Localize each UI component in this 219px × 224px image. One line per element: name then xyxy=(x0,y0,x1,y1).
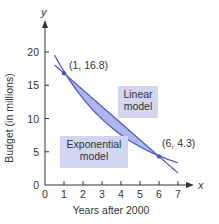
linear-model-label-line1: Linear xyxy=(118,88,158,100)
linear-model-label: Linear model xyxy=(118,86,158,118)
data-point xyxy=(157,154,161,158)
exponential-model-label-line2: model xyxy=(60,150,128,162)
x-tick-label: 2 xyxy=(80,188,86,200)
x-tick-label: 0 xyxy=(42,188,48,200)
data-point xyxy=(62,71,66,75)
x-axis-symbol: x xyxy=(197,179,204,191)
y-axis-arrow xyxy=(42,20,48,28)
y-tick-label: 0 xyxy=(33,179,39,191)
y-tick-label: 20 xyxy=(27,46,39,58)
x-tick-label: 5 xyxy=(137,188,143,200)
y-tick-label: 10 xyxy=(27,113,39,125)
y-axis-symbol: y xyxy=(40,6,48,18)
data-point-label: (6, 4.3) xyxy=(162,137,195,149)
x-tick-label: 3 xyxy=(99,188,105,200)
chart: x y Years after 2000 Budget (in millions… xyxy=(0,0,219,224)
x-tick-label: 7 xyxy=(175,188,181,200)
linear-model-label-line2: model xyxy=(118,100,158,112)
y-tick-label: 5 xyxy=(33,146,39,158)
y-axis-label: Budget (in millions) xyxy=(3,73,15,162)
x-axis-label: Years after 2000 xyxy=(73,204,150,216)
x-tick-label: 1 xyxy=(61,188,67,200)
exponential-model-label: Exponential model xyxy=(60,136,128,168)
y-tick-label: 15 xyxy=(27,79,39,91)
x-tick-label: 4 xyxy=(118,188,124,200)
x-tick-label: 6 xyxy=(156,188,162,200)
exponential-model-label-line1: Exponential xyxy=(60,138,128,150)
x-axis-arrow xyxy=(186,182,194,188)
data-point-label: (1, 16.8) xyxy=(69,59,108,71)
